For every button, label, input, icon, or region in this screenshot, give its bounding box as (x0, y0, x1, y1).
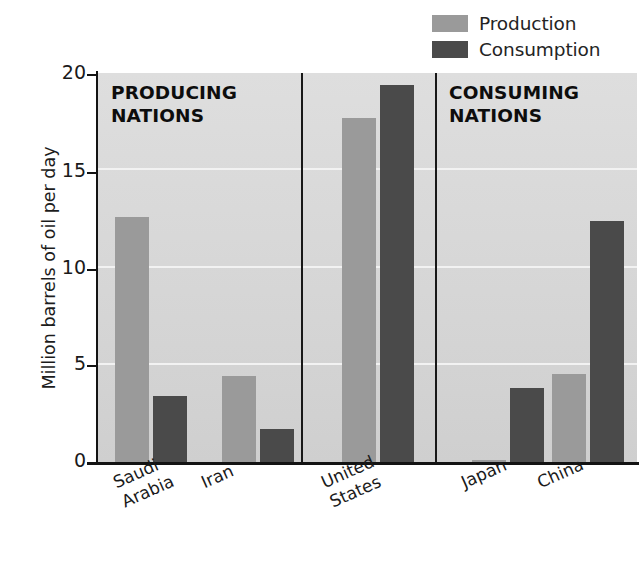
bar-united-states-consumption (380, 85, 414, 462)
x-label-iran: Iran (198, 460, 237, 493)
section-divider-1 (301, 73, 303, 462)
section-heading-producing: PRODUCINGNATIONS (111, 81, 237, 127)
bar-united-states-production (342, 118, 376, 462)
chart-legend: Production Consumption (432, 10, 632, 62)
y-tick-label-0: 0 (34, 449, 86, 471)
section-heading-consuming: CONSUMINGNATIONS (449, 81, 579, 127)
section-divider-2 (435, 73, 437, 462)
legend-label-consumption: Consumption (479, 39, 600, 60)
legend-label-production: Production (479, 13, 576, 34)
plot-area: PRODUCINGNATIONSCONSUMINGNATIONS (97, 73, 637, 462)
bar-iran-production (222, 376, 256, 462)
y-tick-label-5: 5 (34, 352, 86, 374)
legend-item-production: Production (432, 10, 632, 36)
section-heading-line1: PRODUCING (111, 81, 237, 104)
production-swatch (432, 15, 468, 32)
section-heading-line1: CONSUMING (449, 81, 579, 104)
section-heading-line2: NATIONS (449, 104, 579, 127)
bar-iran-consumption (260, 429, 294, 462)
y-tick-label-20: 20 (34, 61, 86, 83)
section-heading-line2: NATIONS (111, 104, 237, 127)
y-tick-label-15: 15 (34, 159, 86, 181)
y-axis-line (96, 71, 98, 464)
bar-japan-consumption (510, 388, 544, 462)
legend-item-consumption: Consumption (432, 36, 632, 62)
y-tick-label-10: 10 (34, 256, 86, 278)
bar-china-production (552, 374, 586, 462)
bar-saudi-arabia-production (115, 217, 149, 462)
bar-china-consumption (590, 221, 624, 462)
y-axis-ticks: 05101520 (0, 0, 86, 563)
consumption-swatch (432, 41, 468, 58)
